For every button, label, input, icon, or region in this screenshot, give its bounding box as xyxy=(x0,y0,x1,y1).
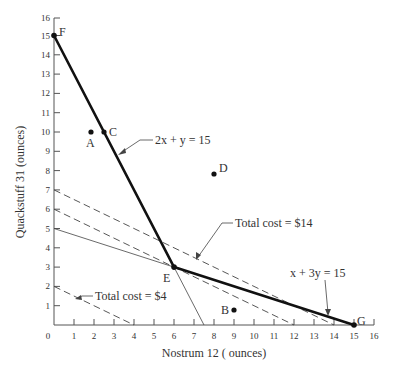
leader-x3y xyxy=(325,280,328,313)
x-tick-label: 9 xyxy=(232,331,237,341)
x-tick-label: 12 xyxy=(290,331,299,341)
x-tick-label: 16 xyxy=(370,331,380,341)
y-tick-label: 9 xyxy=(46,146,51,156)
y-tick-label: 16 xyxy=(41,13,51,23)
y-tick-label: 15 xyxy=(41,31,51,41)
y-tick-label: 12 xyxy=(41,88,50,98)
x-tick-label: 7 xyxy=(192,331,197,341)
annotation-total-cost-4: Total cost = $4 xyxy=(95,289,167,303)
y-tick-label: 11 xyxy=(41,108,50,118)
arrow-2x xyxy=(118,148,126,155)
point-E xyxy=(171,264,177,270)
point-G xyxy=(351,322,357,328)
leader-2x xyxy=(122,140,153,152)
point-A xyxy=(88,129,93,134)
x-tick-label: 8 xyxy=(212,331,217,341)
y-tick-label: 10 xyxy=(41,127,51,137)
x-tick-label: 5 xyxy=(152,331,157,341)
annotation-x-3y-15: x + 3y = 15 xyxy=(290,266,346,280)
x-tick-labels: 0 1 2 3 4 5 6 7 8 9 10 11 12 13 14 15 16 xyxy=(46,331,379,341)
label-E: E xyxy=(163,271,170,285)
label-C: C xyxy=(109,125,117,139)
x-tick-label: 2 xyxy=(92,331,97,341)
label-B: B xyxy=(221,303,229,317)
x-tick-label: 6 xyxy=(172,331,177,341)
y-ticks xyxy=(54,18,60,306)
y-tick-label: 4 xyxy=(46,243,51,253)
y-tick-label: 1 xyxy=(46,301,51,311)
x-tick-label: 3 xyxy=(112,331,117,341)
annotation-2x-y-15: 2x + y = 15 xyxy=(155,133,211,147)
label-G: G xyxy=(357,314,366,328)
y-tick-label: 13 xyxy=(41,69,51,79)
x-ticks xyxy=(74,319,374,325)
points xyxy=(51,33,357,328)
y-tick-label: 5 xyxy=(46,224,51,234)
y-tick-label: 14 xyxy=(41,50,51,60)
x-tick-label: 14 xyxy=(330,331,340,341)
y-tick-label: 2 xyxy=(46,281,51,291)
annotation-total-cost-14: Total cost = $14 xyxy=(235,216,313,230)
label-D: D xyxy=(219,161,228,175)
production-diagram: 0 1 2 3 4 5 6 7 8 9 10 11 12 13 14 15 16… xyxy=(0,0,400,376)
y-tick-label: 8 xyxy=(46,166,51,176)
point-labels: F A C D E B G xyxy=(59,25,366,328)
y-tick-labels: 1 2 3 4 5 6 7 8 9 10 11 12 13 14 15 16 xyxy=(41,13,51,311)
x-tick-label: 0 xyxy=(46,331,51,341)
x-tick-label: 13 xyxy=(310,331,320,341)
leader-14 xyxy=(198,223,233,257)
x-tick-label: 1 xyxy=(72,331,77,341)
point-F xyxy=(51,33,57,39)
label-A: A xyxy=(86,136,95,150)
y-axis-title: Quackstuff 31 (ounces) xyxy=(13,126,27,238)
x-tick-label: 4 xyxy=(132,331,137,341)
x-tick-label: 11 xyxy=(270,331,279,341)
x-axis-title: Nostrum 12 ( ounces) xyxy=(162,346,266,360)
x-tick-label: 10 xyxy=(250,331,260,341)
x-tick-label: 15 xyxy=(350,331,360,341)
point-D xyxy=(211,171,216,176)
y-tick-label: 6 xyxy=(46,204,51,214)
label-F: F xyxy=(59,25,66,39)
point-C xyxy=(101,129,106,134)
y-tick-label: 3 xyxy=(46,262,51,272)
point-B xyxy=(231,307,236,312)
y-tick-label: 7 xyxy=(46,185,51,195)
